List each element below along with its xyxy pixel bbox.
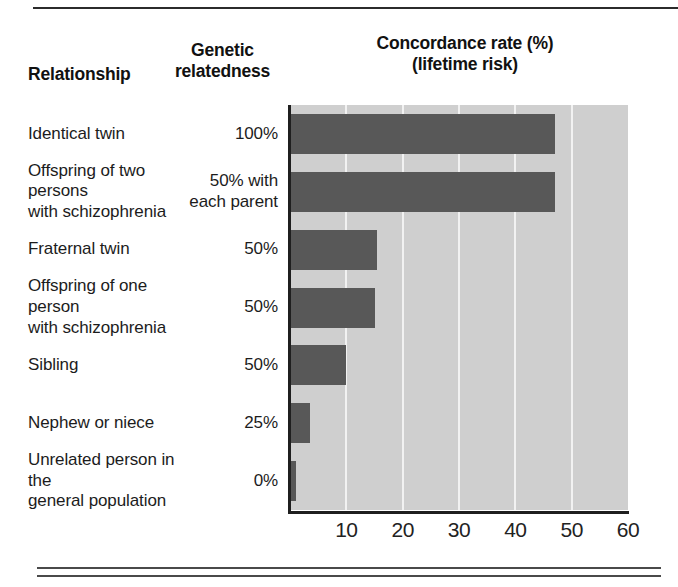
row-genetic-relatedness-line: 50% with: [182, 171, 278, 192]
row-genetic-relatedness-line: 50%: [182, 355, 278, 376]
table-row: Offspring of one personwith schizophreni…: [0, 279, 288, 337]
row-genetic-relatedness-value: 50%: [182, 297, 288, 318]
x-tick-label-60: 60: [606, 518, 650, 542]
row-relationship-line: Fraternal twin: [28, 239, 182, 260]
row-genetic-relatedness-value: 25%: [182, 413, 288, 434]
bar: [290, 114, 555, 154]
row-relationship-line: Unrelated person in the: [28, 450, 182, 491]
bottom-rule-upper: [37, 567, 661, 569]
row-genetic-relatedness-value: 50%: [182, 355, 288, 376]
chart-title-line1: Concordance rate (%): [300, 33, 630, 54]
table-row: Unrelated person in thegeneral populatio…: [0, 452, 288, 510]
row-relationship-label: Unrelated person in thegeneral populatio…: [0, 450, 182, 512]
column-header-genetic-relatedness: Genetic relatedness: [160, 40, 285, 81]
table-row: Identical twin100%: [0, 105, 288, 163]
gridline-50: [571, 105, 573, 510]
row-genetic-relatedness-value: 100%: [182, 124, 288, 145]
table-row: Sibling50%: [0, 336, 288, 394]
bar: [290, 288, 375, 328]
bar: [290, 403, 310, 443]
row-relationship-label: Offspring of two personswith schizophren…: [0, 161, 182, 223]
row-relationship-label: Offspring of one personwith schizophreni…: [0, 276, 182, 338]
row-genetic-relatedness-line: 50%: [182, 239, 278, 260]
bar: [290, 172, 555, 212]
x-tick-label-40: 40: [493, 518, 537, 542]
row-genetic-relatedness-line: 0%: [182, 471, 278, 492]
gridline-20: [402, 105, 404, 510]
row-relationship-line: Nephew or niece: [28, 413, 182, 434]
row-relationship-line: Identical twin: [28, 124, 182, 145]
row-genetic-relatedness-value: 50%: [182, 239, 288, 260]
table-row: Nephew or niece25%: [0, 394, 288, 452]
row-relationship-label: Nephew or niece: [0, 413, 182, 434]
row-relationship-line: general population: [28, 491, 182, 512]
chart-title: Concordance rate (%) (lifetime risk): [300, 33, 630, 74]
gridline-30: [458, 105, 460, 510]
x-tick-label-20: 20: [381, 518, 425, 542]
column-header-relationship-label: Relationship: [28, 64, 131, 84]
gridline-40: [514, 105, 516, 510]
column-header-relationship: Relationship: [28, 64, 178, 85]
chart-title-line2: (lifetime risk): [300, 54, 630, 75]
plot-area: [290, 105, 628, 510]
row-genetic-relatedness-value: 50% witheach parent: [182, 171, 288, 212]
x-tick-label-50: 50: [550, 518, 594, 542]
y-axis-line: [288, 105, 291, 513]
row-genetic-relatedness-line: each parent: [182, 192, 278, 213]
bottom-rule-lower: [37, 575, 661, 577]
column-header-genetic-relatedness-line1: Genetic: [191, 40, 254, 60]
row-label-list: Identical twin100%Offspring of two perso…: [0, 105, 288, 510]
column-header-genetic-relatedness-line2: relatedness: [175, 61, 270, 81]
row-relationship-label: Sibling: [0, 355, 182, 376]
x-tick-label-10: 10: [324, 518, 368, 542]
row-relationship-line: Offspring of one person: [28, 276, 182, 317]
row-relationship-label: Identical twin: [0, 124, 182, 145]
row-relationship-label: Fraternal twin: [0, 239, 182, 260]
table-row: Offspring of two personswith schizophren…: [0, 163, 288, 221]
bar: [290, 230, 377, 270]
row-genetic-relatedness-line: 25%: [182, 413, 278, 434]
x-axis-line: [288, 511, 629, 514]
row-genetic-relatedness-value: 0%: [182, 471, 288, 492]
row-relationship-line: Sibling: [28, 355, 182, 376]
bar: [290, 345, 346, 385]
concordance-rate-figure: Relationship Genetic relatedness Concord…: [0, 0, 678, 587]
table-row: Fraternal twin50%: [0, 221, 288, 279]
x-tick-label-30: 30: [437, 518, 481, 542]
row-genetic-relatedness-line: 50%: [182, 297, 278, 318]
top-rule: [33, 7, 678, 9]
row-genetic-relatedness-line: 100%: [182, 124, 278, 145]
row-relationship-line: Offspring of two persons: [28, 161, 182, 202]
